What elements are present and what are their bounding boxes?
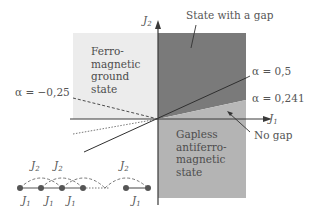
chain-j1-label: J1 (67, 194, 76, 210)
alpha-241-label: α = 0,241 (252, 92, 305, 104)
gapless-label: Gapless antiferro- magnetic state (176, 128, 227, 178)
j2-axis-label: J2 (143, 14, 152, 30)
phase-diagram (0, 0, 314, 217)
ferromagnetic-label: Ferro- magnetic ground state (91, 45, 140, 95)
chain-j1-label: J1 (132, 194, 141, 210)
dotted-line (73, 119, 158, 134)
chain-j1-label: J1 (22, 194, 31, 210)
j1-axis-label: J1 (269, 112, 278, 128)
no-gap-label: No gap (254, 129, 293, 141)
spin-chain (17, 178, 151, 191)
j2-arrowhead (155, 20, 161, 29)
spin-site (145, 185, 151, 191)
alpha-half-label: α = 0,5 (252, 65, 291, 77)
chain-j1-label: J1 (45, 194, 54, 210)
state-with-gap-label: State with a gap (186, 9, 273, 21)
spin-site (59, 185, 65, 191)
spin-site (17, 185, 23, 191)
chain-j2-label: J2 (120, 159, 129, 175)
chain-j2-label: J2 (31, 159, 40, 175)
spin-site (38, 185, 44, 191)
chain-j2-label: J2 (54, 159, 63, 175)
spin-site (80, 185, 86, 191)
alpha-neg-label: α = −0,25 (15, 86, 70, 98)
spin-site (123, 185, 129, 191)
